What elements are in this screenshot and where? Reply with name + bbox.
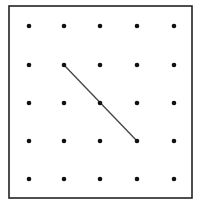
grid-dot (98, 63, 103, 68)
grid-dot (135, 101, 140, 106)
grid-dot (62, 63, 67, 68)
grid-dot (27, 101, 32, 106)
grid-dot (172, 101, 177, 106)
grid-dot (98, 24, 103, 29)
dot-grid (27, 24, 177, 182)
grid-dot (172, 63, 177, 68)
grid-dot (27, 139, 32, 144)
grid-dot (135, 24, 140, 29)
grid-dot (172, 139, 177, 144)
grid-dot (98, 101, 103, 106)
grid-dot (62, 101, 67, 106)
grid-dot (135, 139, 140, 144)
grid-dot (135, 63, 140, 68)
grid-dot (172, 24, 177, 29)
grid-dot (98, 177, 103, 182)
grid-dot (135, 177, 140, 182)
geoboard-diagram (0, 0, 197, 208)
grid-dot (27, 24, 32, 29)
grid-dot (27, 177, 32, 182)
grid-dot (27, 63, 32, 68)
grid-dot (62, 177, 67, 182)
grid-dot (62, 24, 67, 29)
grid-dot (98, 139, 103, 144)
grid-dot (62, 139, 67, 144)
grid-dot (172, 177, 177, 182)
